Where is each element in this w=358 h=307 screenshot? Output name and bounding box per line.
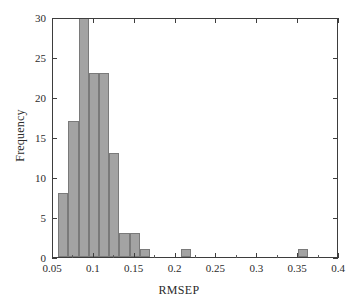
histogram-bar — [130, 233, 140, 257]
y-axis-tick-right — [333, 178, 338, 179]
x-axis-tick — [134, 253, 135, 258]
histogram-bar — [68, 121, 78, 257]
y-axis-tick-right — [333, 58, 338, 59]
x-axis-tick-top — [175, 18, 176, 23]
x-axis-minor-tick — [236, 255, 237, 258]
histogram-figure: 0.050.10.150.20.250.30.350.4051015202530… — [0, 0, 358, 307]
y-axis-tick-right — [333, 98, 338, 99]
y-axis-tick-right — [333, 18, 338, 19]
y-axis-tick — [52, 178, 57, 179]
histogram-bar — [140, 249, 150, 257]
x-axis-tick — [338, 253, 339, 258]
histogram-bar — [109, 153, 119, 257]
x-axis-tick-top — [256, 18, 257, 23]
y-axis-tick-right — [333, 138, 338, 139]
histogram-bar — [181, 249, 191, 257]
x-axis-tick-top — [93, 18, 94, 23]
x-axis-label: RMSEP — [0, 283, 358, 298]
y-axis-tick — [52, 138, 57, 139]
y-axis-tick-right — [333, 258, 338, 259]
x-axis-tick — [175, 253, 176, 258]
histogram-bar — [298, 249, 308, 257]
histogram-bar — [58, 193, 68, 257]
y-axis-tick-label: 30 — [4, 12, 46, 24]
y-axis-tick-right — [333, 218, 338, 219]
x-axis-tick-label: 0.25 — [193, 262, 237, 274]
x-axis-minor-tick — [318, 255, 319, 258]
y-axis-tick — [52, 218, 57, 219]
x-axis-tick-top — [215, 18, 216, 23]
x-axis-tick — [256, 253, 257, 258]
histogram-bar — [89, 73, 99, 257]
x-axis-tick — [93, 253, 94, 258]
x-axis-tick-top — [338, 18, 339, 23]
y-axis-tick — [52, 18, 57, 19]
x-axis-tick-label: 0.2 — [153, 262, 197, 274]
y-axis-tick-label: 0 — [4, 252, 46, 264]
y-axis-tick — [52, 258, 57, 259]
x-axis-tick-label: 0.15 — [112, 262, 156, 274]
x-axis-minor-tick — [72, 255, 73, 258]
x-axis-minor-tick — [277, 255, 278, 258]
x-axis-tick-label: 0.35 — [275, 262, 319, 274]
x-axis-tick-top — [134, 18, 135, 23]
histogram-bar — [99, 73, 109, 257]
x-axis-minor-tick — [195, 255, 196, 258]
y-axis-label: Frequency — [13, 86, 28, 186]
y-axis-tick-label: 5 — [4, 212, 46, 224]
x-axis-minor-tick — [154, 255, 155, 258]
x-axis-minor-tick — [113, 255, 114, 258]
x-axis-tick-label: 0.3 — [234, 262, 278, 274]
y-axis-tick — [52, 98, 57, 99]
plot-area — [52, 18, 338, 258]
x-axis-tick — [215, 253, 216, 258]
x-axis-tick — [297, 253, 298, 258]
x-axis-tick-top — [297, 18, 298, 23]
y-axis-tick — [52, 58, 57, 59]
histogram-bar — [119, 233, 129, 257]
histogram-bar — [79, 18, 89, 257]
x-axis-tick-label: 0.1 — [71, 262, 115, 274]
x-axis-tick-label: 0.4 — [316, 262, 358, 274]
y-axis-tick-label: 25 — [4, 52, 46, 64]
